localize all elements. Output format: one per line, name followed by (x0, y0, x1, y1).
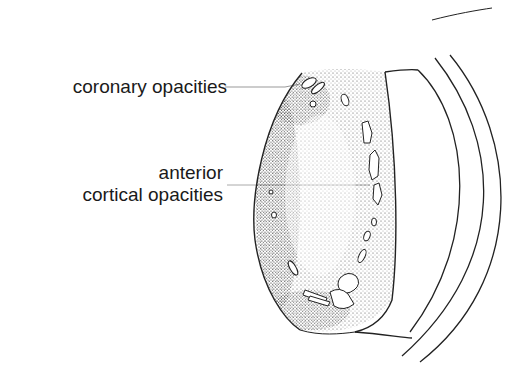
lens-diagram (0, 0, 517, 369)
